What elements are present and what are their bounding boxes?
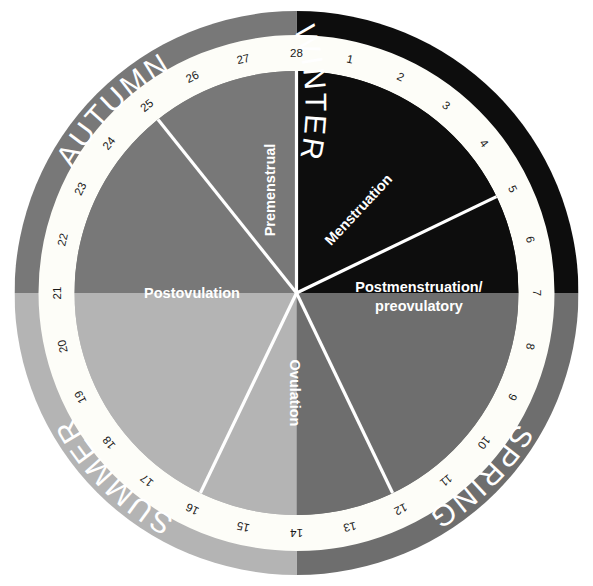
phase-label-postmenstruation: Postmenstruation/	[355, 279, 482, 295]
phase-label-premenstrual: Premenstrual	[262, 144, 278, 237]
phase-label-postovulation: Postovulation	[144, 285, 240, 301]
day-number-21: 21	[51, 287, 63, 300]
day-number-14: 14	[290, 527, 303, 539]
phase-label-preovulatory: preovulatory	[375, 298, 463, 314]
day-number-7: 7	[531, 290, 543, 296]
cycle-wheel-svg: WINTER AUTUMN SUMMER SPRING 123456789101…	[0, 0, 593, 586]
menstrual-cycle-diagram: WINTER AUTUMN SUMMER SPRING 123456789101…	[0, 0, 593, 586]
day-number-28: 28	[290, 47, 303, 59]
phase-label-ovulation: Ovulation	[287, 360, 303, 427]
